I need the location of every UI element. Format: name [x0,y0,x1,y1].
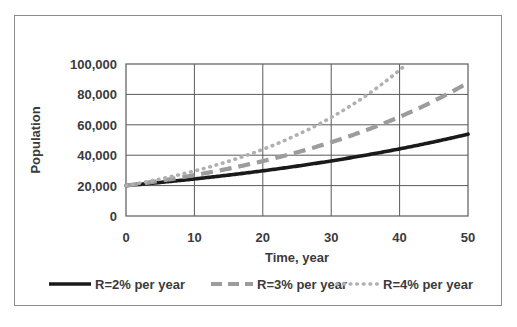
y-tick-label: 100,000 [70,57,117,72]
x-tick-label: 50 [461,230,475,245]
x-tick-label: 20 [256,230,270,245]
x-tick-label: 0 [122,230,129,245]
x-axis-tick-labels: 01020304050 [122,230,475,245]
x-tick-label: 30 [324,230,338,245]
y-tick-label: 0 [110,209,117,224]
x-tick-label: 10 [187,230,201,245]
legend-label-3: R=4% per year [383,277,473,292]
x-tick-label: 40 [392,230,406,245]
y-axis-tick-labels: 020,00040,00060,00080,000100,000 [70,57,117,224]
y-tick-label: 40,000 [77,148,117,163]
x-axis-title: Time, year [265,250,329,265]
chart-legend: R=2% per yearR=3% per yearR=4% per year [49,277,473,292]
legend-label-2: R=3% per year [257,277,347,292]
y-tick-label: 80,000 [77,87,117,102]
legend-label-1: R=2% per year [95,277,185,292]
chart-figure: 020,00040,00060,00080,000100,000 0102030… [14,15,502,306]
y-tick-label: 20,000 [77,179,117,194]
y-tick-label: 60,000 [77,118,117,133]
population-growth-line-chart: 020,00040,00060,00080,000100,000 0102030… [15,16,503,307]
plot-wrapper: 020,00040,00060,00080,000100,000 0102030… [15,16,501,305]
plot-background [126,64,468,216]
y-axis-title: Population [28,106,43,173]
